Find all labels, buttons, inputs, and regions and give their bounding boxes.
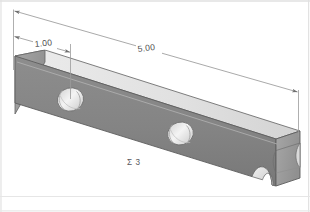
dimension-label-1-00: 1.00 <box>34 37 52 49</box>
sheet-note-label: Σ 3 <box>127 158 141 167</box>
cad-drawing-svg: 1.00 5.00 Σ 3 <box>0 0 310 212</box>
bar-solid-body <box>15 50 300 186</box>
dimension-label-5-00: 5.00 <box>137 42 156 54</box>
technical-drawing-canvas: 1.00 5.00 Σ 3 <box>0 0 310 212</box>
